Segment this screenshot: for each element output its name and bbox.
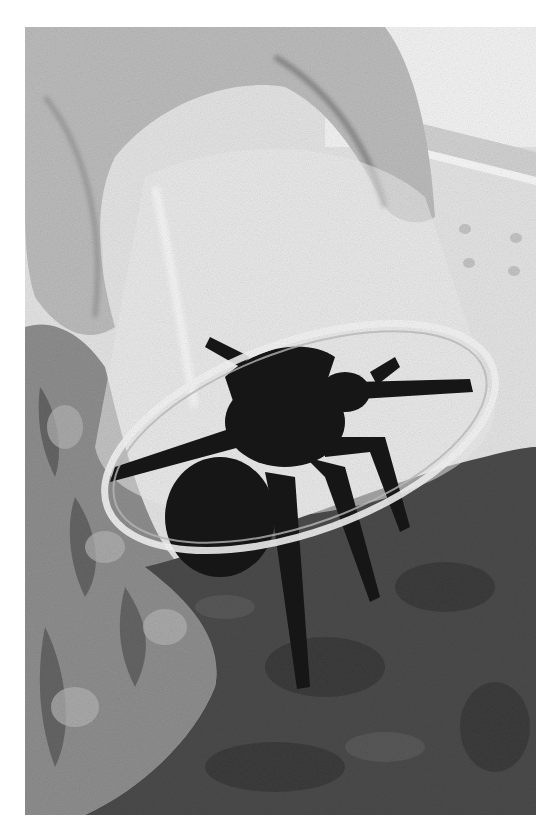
photograph	[25, 27, 536, 815]
tarantula-scene	[25, 27, 536, 815]
